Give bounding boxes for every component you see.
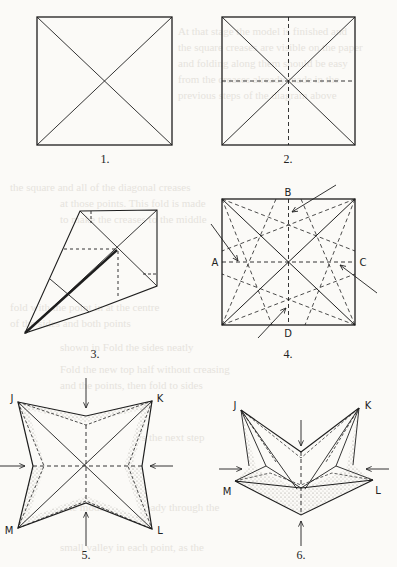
figure-6-caption: 6.: [297, 548, 306, 563]
point-label-d: D: [284, 328, 292, 339]
point-label-k: K: [157, 393, 164, 404]
figure-6-diagram: [219, 408, 389, 546]
diagram-canvas: [0, 0, 397, 567]
point-label-k: K: [365, 400, 372, 411]
figure-2-diagram: [222, 17, 355, 145]
point-label-l: L: [157, 525, 163, 536]
point-label-l: L: [375, 485, 381, 496]
figure-4-diagram: [211, 185, 377, 338]
figure-1-diagram: [37, 17, 172, 145]
figure-4-caption: 4.: [284, 347, 293, 362]
figure-2-caption: 2.: [284, 152, 293, 167]
figure-1-caption: 1.: [101, 152, 110, 167]
figure-3-caption: 3.: [91, 347, 100, 362]
point-label-j: J: [234, 400, 237, 411]
figure-3-diagram: [25, 210, 157, 333]
point-label-m: M: [5, 525, 14, 536]
point-label-j: J: [11, 393, 14, 404]
figure-5-diagram: [0, 378, 173, 546]
point-label-a: A: [212, 257, 219, 268]
point-label-b: B: [285, 187, 292, 198]
point-label-m: M: [223, 486, 232, 497]
point-label-c: C: [360, 257, 367, 268]
figure-5-caption: 5.: [82, 548, 91, 563]
